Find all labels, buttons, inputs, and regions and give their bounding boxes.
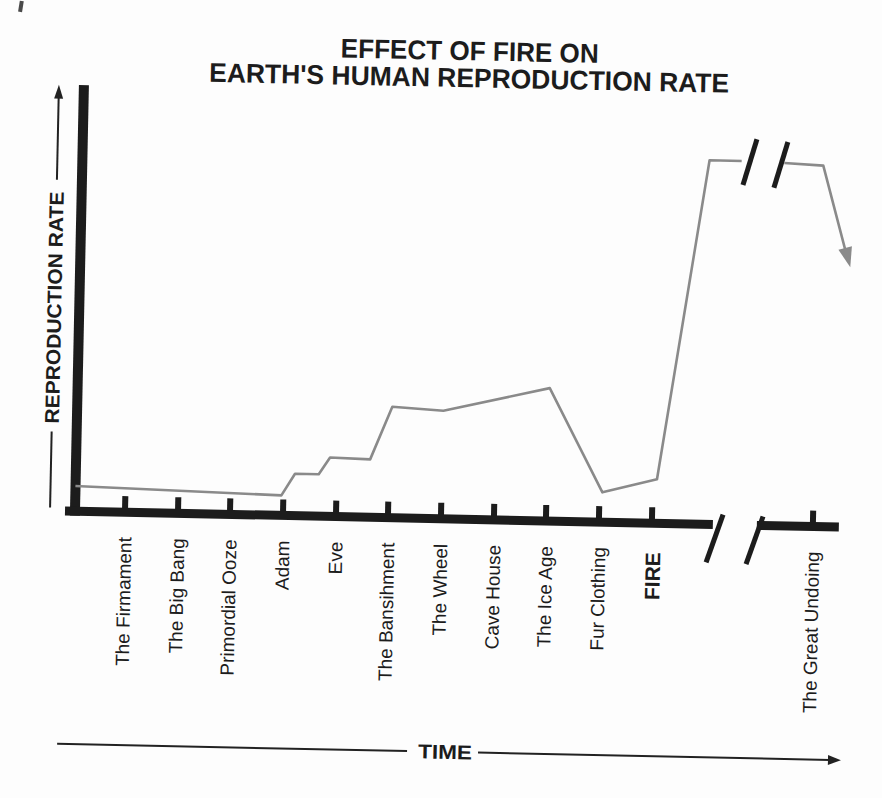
category-label-cave-house: Cave House xyxy=(481,545,504,650)
scanned-chart-page: EFFECT OF FIRE ON EARTH'S HUMAN REPRODUC… xyxy=(0,0,882,798)
category-label-eve: Eve xyxy=(325,541,347,574)
category-label-the-big-bang: The Big Bang xyxy=(165,538,188,654)
category-label-the-ice-age: The Ice Age xyxy=(533,546,556,648)
chart-canvas: EFFECT OF FIRE ON EARTH'S HUMAN REPRODUC… xyxy=(0,0,882,798)
x-axis-label: TIME xyxy=(418,740,472,763)
x-axis-line-right xyxy=(757,525,839,527)
category-label-adam: Adam xyxy=(271,540,293,590)
category-label-the-great-undoing: The Great Undoing xyxy=(799,551,823,713)
category-label-fire: FIRE xyxy=(640,552,664,600)
category-label-the-wheel: The Wheel xyxy=(428,544,451,636)
page-background xyxy=(0,0,882,798)
category-label-the-firmament: The Firmament xyxy=(112,536,136,666)
category-label-primordial-ooze: Primordial Ooze xyxy=(217,539,241,676)
category-label-fur-clothing: Fur Clothing xyxy=(586,547,609,651)
category-label-the-bansihment: The Bansihment xyxy=(375,542,399,681)
